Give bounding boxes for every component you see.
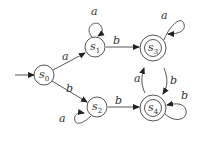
- svg-text:s0: s0: [39, 68, 49, 83]
- edge-s1-s1-label: a: [91, 5, 98, 18]
- edge-s2-s2-label: a: [59, 112, 66, 125]
- edge-s0-s2-label: b: [66, 82, 73, 95]
- edge-s0-s1: [53, 53, 85, 70]
- edge-s3-s3: [164, 21, 184, 40]
- state-s2: s2: [87, 97, 107, 117]
- state-s0-sub: 0: [45, 75, 49, 83]
- edge-s4-s4: [165, 104, 186, 120]
- state-s4: s4: [140, 95, 166, 121]
- state-s0: s0: [34, 65, 54, 85]
- svg-text:s2: s2: [92, 100, 102, 115]
- edge-s1-s1: [89, 23, 102, 37]
- automaton-diagram: s0 s1 s2 s3 s4 a b a b a b a b: [0, 0, 201, 144]
- edge-s2-s4-label: b: [115, 94, 122, 107]
- svg-text:s4: s4: [148, 101, 159, 116]
- state-s1-sub: 1: [96, 47, 100, 55]
- svg-text:s3: s3: [148, 41, 158, 56]
- edge-s3-s3-label: a: [161, 9, 168, 22]
- edge-s4-s4-label: b: [181, 89, 188, 102]
- edge-s2-s2: [75, 113, 91, 123]
- svg-text:s1: s1: [90, 40, 100, 55]
- state-s1: s1: [85, 37, 105, 57]
- edge-s4-s3: [142, 68, 145, 93]
- edge-s3-s4-label: b: [170, 74, 177, 87]
- state-s2-sub: 2: [98, 107, 102, 115]
- edge-s4-s3-label: a: [134, 72, 141, 85]
- edge-s0-s1-label: a: [62, 50, 69, 63]
- state-s3: s3: [140, 35, 166, 61]
- edge-s1-s3-label: b: [113, 34, 120, 47]
- edge-s3-s4: [163, 68, 167, 94]
- state-s4-sub: 4: [154, 108, 159, 116]
- state-s3-sub: 3: [154, 48, 158, 56]
